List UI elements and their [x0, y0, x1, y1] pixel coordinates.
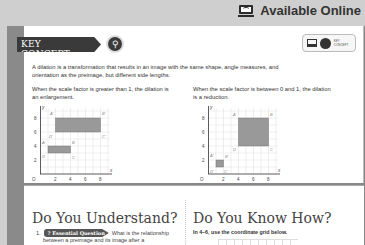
svg-text:x: x — [109, 168, 113, 173]
svg-text:x: x — [277, 168, 281, 173]
svg-text:D′: D′ — [210, 169, 214, 174]
svg-text:y: y — [209, 105, 213, 110]
svg-text:B: B — [270, 112, 273, 117]
svg-text:6: 6 — [34, 130, 37, 135]
enlargement-graph: 8642 O2468 yx A′B′C′D′ ABCD — [30, 104, 120, 186]
svg-text:A: A — [41, 140, 45, 145]
svg-text:A′: A′ — [49, 111, 54, 116]
svg-text:4: 4 — [202, 144, 205, 149]
coordinate-grid — [218, 239, 298, 245]
svg-text:C′: C′ — [102, 134, 106, 139]
svg-text:8: 8 — [34, 116, 37, 121]
svg-text:6: 6 — [84, 177, 87, 182]
laptop-icon[interactable] — [307, 39, 317, 47]
svg-text:A: A — [232, 112, 236, 117]
svg-text:8: 8 — [267, 177, 270, 182]
definition-text: A dilation is a transformation that resu… — [32, 63, 302, 79]
understand-title: Do You Understand? — [32, 210, 177, 226]
key-concept-icon[interactable] — [320, 38, 331, 49]
svg-text:4: 4 — [34, 144, 37, 149]
svg-text:2: 2 — [34, 158, 37, 163]
left-bar — [7, 26, 24, 245]
svg-text:8: 8 — [99, 177, 102, 182]
svg-text:O: O — [200, 177, 204, 182]
reduction-graph: 8642 O2468 yx ABCD A′B′C′D′ — [198, 104, 288, 186]
svg-text:4: 4 — [237, 177, 240, 182]
item-number: 1. — [36, 230, 41, 236]
know-how-instructions: In 4–6, use the coordinate grid below. — [193, 229, 287, 235]
column-divider — [185, 200, 186, 245]
svg-text:8: 8 — [202, 116, 205, 121]
available-online-label: Available Online — [260, 3, 361, 18]
svg-text:6: 6 — [252, 177, 255, 182]
key-icon[interactable]: ⚲ — [106, 35, 124, 53]
question-1: 1. ? Essential Question What is the rela… — [36, 229, 169, 237]
svg-text:A′: A′ — [209, 153, 214, 158]
svg-text:2: 2 — [222, 177, 225, 182]
svg-text:D′: D′ — [49, 134, 53, 139]
available-online[interactable]: Available Online — [238, 3, 361, 18]
svg-text:B′: B′ — [225, 154, 229, 159]
svg-text:C: C — [270, 147, 273, 152]
question-text-1: What is the relationship — [112, 230, 169, 236]
svg-text:B: B — [72, 140, 75, 145]
svg-text:6: 6 — [202, 130, 205, 135]
question-text-2: between a preimage and its image after a — [43, 237, 144, 243]
laptop-wifi-icon — [238, 5, 254, 17]
svg-text:D: D — [233, 147, 236, 152]
svg-text:B′: B′ — [102, 111, 106, 116]
toolbar-text: KEY CONCEPT — [334, 39, 355, 47]
svg-text:C: C — [72, 155, 75, 160]
svg-text:D: D — [42, 154, 45, 159]
question-icon: ? — [48, 230, 51, 236]
svg-text:C′: C′ — [224, 169, 228, 174]
svg-text:2: 2 — [202, 158, 205, 163]
essential-question-badge: ? Essential Question — [44, 229, 109, 237]
key-concept-toolbar[interactable]: KEY CONCEPT — [302, 34, 356, 52]
reduction-caption: When the scale factor is between 0 and 1… — [193, 85, 333, 101]
svg-text:2: 2 — [54, 177, 57, 182]
enlargement-caption: When the scale factor is greater than 1,… — [32, 85, 172, 101]
svg-text:y: y — [41, 105, 45, 110]
svg-text:O: O — [32, 177, 36, 182]
svg-text:4: 4 — [69, 177, 72, 182]
know-how-title: Do You Know How? — [193, 210, 332, 226]
key-concept-banner: KEY CONCEPT — [17, 37, 101, 52]
